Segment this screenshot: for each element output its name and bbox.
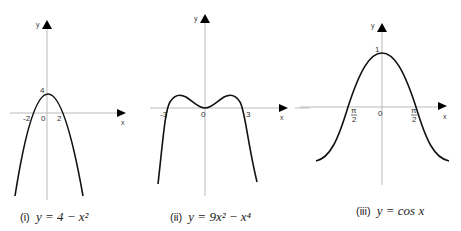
x-tick-neg2: -2 (23, 114, 31, 123)
x-tick-3: 3 (246, 110, 251, 119)
caption-equation: y = 9x² − x⁴ (188, 209, 251, 224)
x-axis-label: x (443, 113, 447, 120)
x-axis-arrow-icon (438, 102, 447, 110)
x-axis-arrow-icon (117, 109, 126, 117)
graph-panel-3: y x 1 π 2 0 π 2 (300, 22, 449, 185)
parabola-curve (15, 94, 83, 196)
x-axis-label: x (121, 119, 125, 126)
caption-equation: y = cos x (377, 203, 424, 218)
caption-2: (ii) y = 9x² − x⁴ (170, 209, 251, 225)
y-axis-label: y (36, 21, 40, 29)
y-axis-arrow-icon (42, 20, 52, 29)
caption-number: (iii) (356, 205, 371, 217)
graph-panel-2: y x -3 0 3 (150, 14, 310, 196)
x-tick-neg-pi: π (351, 106, 357, 115)
x-tick-0: 0 (201, 110, 206, 119)
caption-3: (iii) y = cos x (356, 203, 424, 219)
y-axis-arrow-icon (377, 23, 387, 32)
y-axis-arrow-icon (200, 14, 210, 23)
x-tick-2: 2 (412, 115, 417, 124)
x-axis-arrow-icon (279, 104, 288, 112)
x-tick-0: 0 (378, 109, 383, 118)
caption-equation: y = 4 − x² (36, 209, 88, 224)
y-tick-4: 4 (40, 86, 45, 95)
caption-number: (i) (20, 211, 30, 223)
x-tick-neg-2: 2 (352, 115, 357, 124)
caption-1: (i) y = 4 − x² (20, 209, 88, 225)
x-axis-label: x (280, 114, 284, 121)
graph-panel-1: y x 4 -2 0 2 (10, 20, 126, 200)
caption-number: (ii) (170, 211, 182, 223)
y-axis-label: y (194, 15, 198, 23)
function-graphs: y x 4 -2 0 2 y x -3 0 3 y x 1 π 2 0 π 2 (0, 0, 461, 231)
y-axis-label: y (371, 22, 375, 30)
x-tick-2: 2 (57, 114, 62, 123)
x-tick-0: 0 (41, 114, 46, 123)
